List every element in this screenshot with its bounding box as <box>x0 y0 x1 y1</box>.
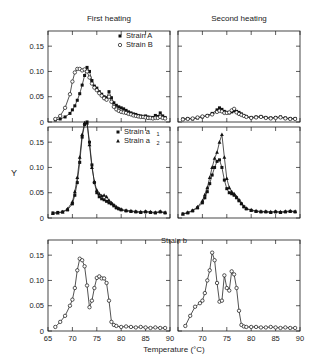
data-point <box>139 325 142 328</box>
data-point <box>115 324 118 327</box>
x-tick-label: 85 <box>271 334 279 343</box>
data-point <box>201 115 204 118</box>
data-point <box>284 326 287 329</box>
legend-marker <box>119 35 122 38</box>
data-point <box>259 115 262 118</box>
data-point <box>73 286 76 289</box>
data-point <box>274 326 277 329</box>
data-point <box>90 299 93 302</box>
data-point <box>259 115 262 118</box>
data-point <box>68 304 71 307</box>
data-point <box>245 115 248 118</box>
panel-frame <box>48 127 170 218</box>
data-point <box>215 281 218 284</box>
data-point <box>76 99 79 102</box>
data-point <box>105 98 108 101</box>
data-point <box>63 106 66 109</box>
data-point <box>196 116 199 119</box>
data-point <box>220 132 224 136</box>
data-point <box>90 299 93 302</box>
data-point <box>80 259 83 262</box>
data-point <box>279 116 282 119</box>
data-point <box>134 326 137 329</box>
data-point <box>264 326 267 329</box>
data-point <box>64 115 67 118</box>
data-point <box>115 324 118 327</box>
data-point <box>71 108 74 111</box>
data-point <box>289 326 292 329</box>
data-point <box>189 314 192 317</box>
data-point <box>284 326 287 329</box>
data-point <box>289 326 292 329</box>
data-point <box>59 320 62 323</box>
data-point <box>230 270 233 273</box>
x-tick-label: 85 <box>141 334 149 343</box>
data-point <box>154 326 157 329</box>
data-point <box>110 100 113 103</box>
legend-label: Strain B <box>126 40 153 49</box>
x-tick-label: 80 <box>117 334 125 343</box>
data-point <box>223 274 226 277</box>
data-point <box>213 259 216 262</box>
data-point <box>264 116 267 119</box>
series-line-strain-a1 <box>183 160 295 214</box>
data-point <box>237 309 240 312</box>
data-point <box>284 117 287 120</box>
y-tick-label: 0.05 <box>29 301 44 310</box>
data-point <box>222 155 226 159</box>
y-tick-label: 0.15 <box>29 42 44 51</box>
data-point <box>264 116 267 119</box>
data-point <box>90 82 93 85</box>
data-point <box>73 104 76 107</box>
data-point <box>68 92 71 95</box>
data-point <box>120 325 123 328</box>
data-point <box>68 112 71 115</box>
data-point <box>289 117 292 120</box>
data-point <box>78 92 81 95</box>
data-point <box>108 90 111 93</box>
data-point <box>102 193 106 197</box>
data-point <box>293 326 296 329</box>
data-point <box>237 309 240 312</box>
data-point <box>85 284 88 287</box>
data-point <box>250 325 253 328</box>
data-point <box>124 325 127 328</box>
x-tick-label: 90 <box>166 334 174 343</box>
data-point <box>259 326 262 329</box>
x-axis-label: Temperature (°C) <box>143 345 205 354</box>
data-point <box>163 117 166 120</box>
column-title-1: First heating <box>87 14 131 23</box>
y-axis-label: Y <box>11 168 17 178</box>
data-point <box>189 314 192 317</box>
data-point <box>63 314 66 317</box>
data-point <box>120 325 123 328</box>
data-point <box>102 277 105 280</box>
data-point <box>284 117 287 120</box>
panel-r2-c2 <box>178 127 300 218</box>
data-point <box>218 140 222 144</box>
data-point <box>110 320 113 323</box>
data-point <box>71 80 74 83</box>
data-point <box>269 117 272 120</box>
data-point <box>201 299 204 302</box>
data-point <box>210 113 213 116</box>
data-point <box>85 284 88 287</box>
data-point <box>220 132 224 136</box>
data-point <box>213 156 217 160</box>
data-point <box>206 114 209 117</box>
legend-marker <box>116 139 120 143</box>
data-point <box>184 324 187 327</box>
y-tick-label: 0 <box>40 214 44 223</box>
data-point <box>201 299 204 302</box>
data-point <box>206 279 209 282</box>
data-point <box>102 193 106 197</box>
data-point <box>186 117 189 120</box>
data-point <box>110 100 113 103</box>
data-point <box>54 117 57 120</box>
data-point <box>250 325 253 328</box>
data-point <box>76 269 79 272</box>
data-point <box>159 326 162 329</box>
data-point <box>218 140 222 144</box>
y-tick-label: 0.15 <box>29 251 44 260</box>
data-point <box>105 98 108 101</box>
